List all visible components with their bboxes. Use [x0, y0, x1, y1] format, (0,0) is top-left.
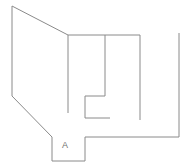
building-outline — [12, 6, 179, 161]
floor-plan-canvas: A — [0, 0, 190, 167]
floor-plan-drawing: A — [0, 0, 190, 167]
room-label-a: A — [62, 140, 68, 150]
diagonal-facade-wall — [12, 6, 68, 35]
inner-step-wall — [85, 96, 110, 118]
